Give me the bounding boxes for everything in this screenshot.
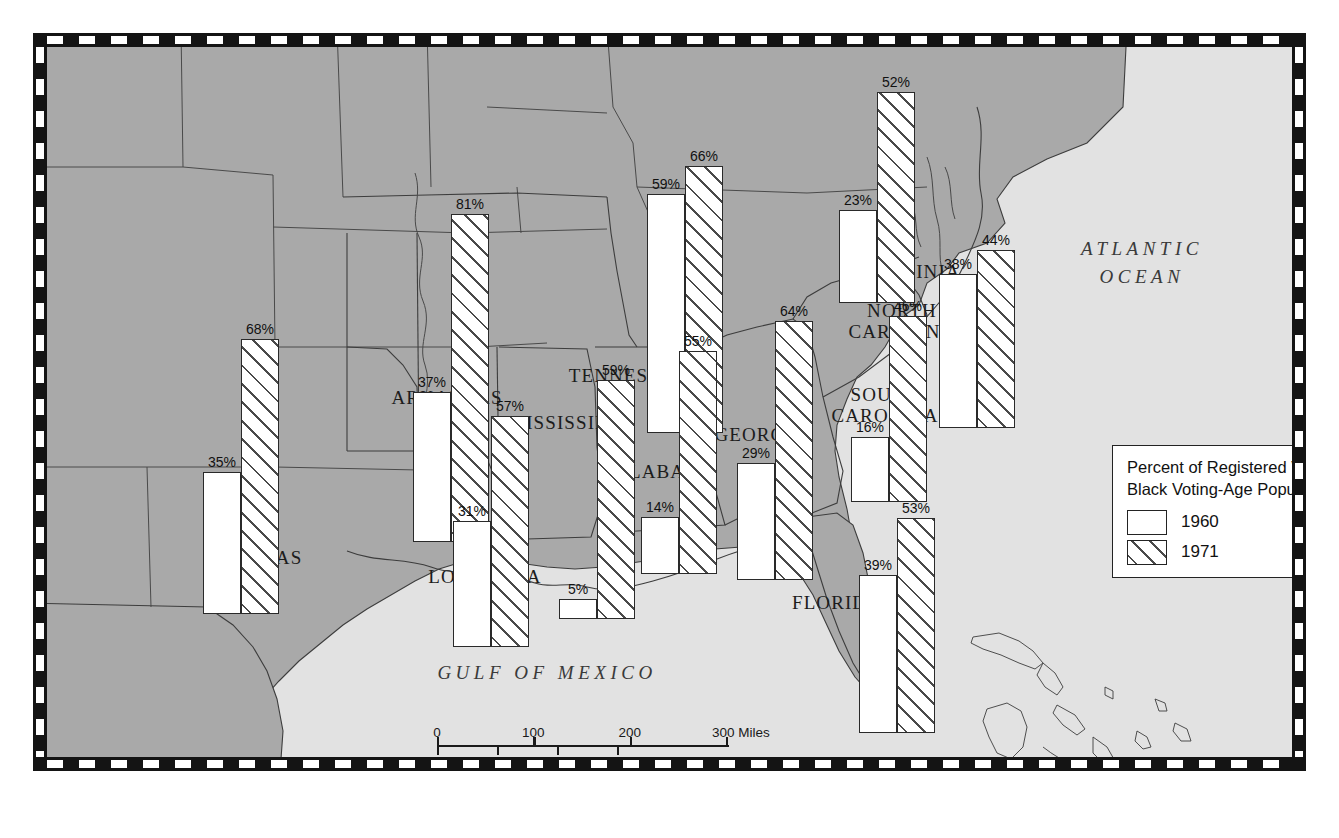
bar-1960-south-carolina	[851, 437, 889, 502]
frame-dash-right-edge	[1295, 47, 1303, 757]
legend-entry-1960: 1960	[1127, 510, 1292, 535]
legend-swatch-1971-icon	[1127, 540, 1167, 565]
bar-value-1971-arkansas: 81%	[456, 196, 484, 212]
bar-value-1960-arkansas: 37%	[418, 374, 446, 390]
scale-bar-axis	[437, 740, 729, 753]
bar-1960-texas	[203, 472, 241, 614]
scale-miles-tick-labels: 0100200300 Miles	[437, 723, 729, 740]
bar-group-north-carolina: 38%44%	[939, 250, 1015, 428]
bar-value-1971-mississippi: 59%	[602, 362, 630, 378]
map-decorative-frame: ATLANTIC OCEAN GULF OF MEXICO TEXASARKAN…	[33, 33, 1306, 771]
bar-value-1960-virginia: 23%	[844, 192, 872, 208]
bar-group-florida: 39%53%	[859, 518, 935, 733]
bar-1971-south-carolina	[889, 316, 927, 502]
bar-value-1960-alabama: 14%	[646, 499, 674, 515]
bar-value-1960-georgia: 29%	[742, 445, 770, 461]
map-scale-bar: 0100200300 Miles 0100200300 Kilometers	[437, 723, 729, 757]
bar-1971-georgia	[775, 321, 813, 580]
bar-1971-louisiana	[491, 416, 529, 647]
bar-value-1971-louisiana: 57%	[496, 398, 524, 414]
map-canvas: ATLANTIC OCEAN GULF OF MEXICO TEXASARKAN…	[47, 47, 1292, 757]
bar-1960-virginia	[839, 210, 877, 303]
bar-1971-virginia	[877, 92, 915, 303]
bar-group-mississippi: 5%59%	[559, 380, 635, 619]
scale-miles-label-3: 300 Miles	[712, 725, 770, 740]
frame-dash-bottom-edge	[47, 760, 1292, 768]
bar-1971-mississippi	[597, 380, 635, 619]
legend-title: Percent of Registered Voters in Black Vo…	[1127, 457, 1292, 501]
bar-value-1960-texas: 35%	[208, 454, 236, 470]
bar-value-1971-virginia: 52%	[882, 74, 910, 90]
bar-1971-alabama	[679, 351, 717, 574]
scale-kilometers-tick-labels: 0100200300 Kilometers	[437, 753, 729, 757]
bar-value-1971-georgia: 64%	[780, 303, 808, 319]
bar-value-1971-texas: 68%	[246, 321, 274, 337]
bar-value-1960-south-carolina: 16%	[856, 419, 884, 435]
bar-group-virginia: 23%52%	[839, 92, 915, 303]
legend-label-1971: 1971	[1181, 542, 1219, 562]
bar-value-1960-florida: 39%	[864, 557, 892, 573]
bar-1960-georgia	[737, 463, 775, 580]
bahamas-islands	[971, 633, 1191, 757]
bar-1960-alabama	[641, 517, 679, 574]
bar-group-south-carolina: 16%46%	[851, 316, 927, 502]
atlantic-ocean-label: ATLANTIC OCEAN	[1081, 235, 1203, 290]
bar-1971-north-carolina	[977, 250, 1015, 428]
scale-axis-line	[437, 745, 729, 747]
map-legend: Percent of Registered Voters in Black Vo…	[1112, 445, 1292, 578]
bar-value-1960-mississippi: 5%	[568, 581, 588, 597]
bar-group-georgia: 29%64%	[737, 321, 813, 580]
bar-value-1960-north-carolina: 38%	[944, 256, 972, 272]
bar-value-1971-florida: 53%	[902, 500, 930, 516]
bar-value-1960-louisiana: 31%	[458, 503, 486, 519]
legend-swatch-1960-icon	[1127, 510, 1167, 535]
gulf-of-mexico-label: GULF OF MEXICO	[437, 659, 656, 687]
legend-title-line-2: Black Voting-Age Population	[1127, 479, 1292, 501]
bar-1971-florida	[897, 518, 935, 733]
bar-value-1971-tennessee: 66%	[690, 148, 718, 164]
legend-title-line-1: Percent of Registered Voters in	[1127, 457, 1292, 479]
scale-tick-miles-100	[533, 737, 535, 746]
bar-1960-north-carolina	[939, 274, 977, 428]
bar-group-louisiana: 31%57%	[453, 416, 529, 647]
bar-1960-arkansas	[413, 392, 451, 542]
legend-label-1960: 1960	[1181, 512, 1219, 532]
scale-tick-miles-200	[630, 737, 632, 746]
bar-value-1960-tennessee: 59%	[652, 176, 680, 192]
bar-1971-texas	[241, 339, 279, 614]
bar-1960-louisiana	[453, 521, 491, 647]
legend-entry-1971: 1971	[1127, 540, 1292, 565]
scale-km-label-0: 0	[433, 756, 441, 757]
scale-km-label-1: 100	[486, 756, 509, 757]
frame-dash-left-edge	[36, 47, 44, 757]
voter-registration-map-figure: ATLANTIC OCEAN GULF OF MEXICO TEXASARKAN…	[0, 0, 1339, 838]
bar-1960-mississippi	[559, 599, 597, 619]
scale-km-label-3: 300 Kilometers	[603, 756, 693, 757]
bar-value-1971-north-carolina: 44%	[982, 232, 1010, 248]
frame-dash-top-edge	[47, 36, 1292, 44]
bar-group-texas: 35%68%	[203, 339, 279, 614]
bar-value-1971-alabama: 55%	[684, 333, 712, 349]
bar-1960-florida	[859, 575, 897, 733]
scale-km-label-2: 200	[545, 756, 568, 757]
bar-group-alabama: 14%55%	[641, 351, 717, 574]
scale-tick-miles-300	[726, 737, 728, 746]
